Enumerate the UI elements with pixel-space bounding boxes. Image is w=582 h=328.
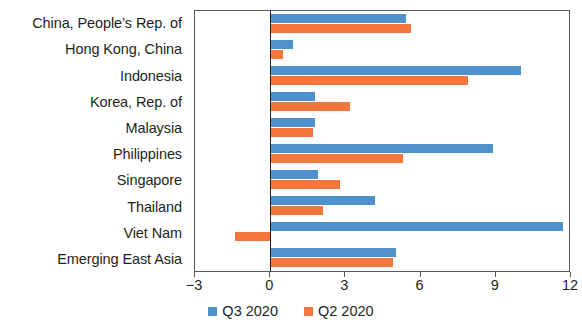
bar-q3-2020 — [270, 144, 493, 153]
bar-q2-2020 — [270, 258, 393, 267]
bar-q3-2020 — [270, 196, 375, 205]
plot-area — [194, 10, 570, 272]
legend-swatch-icon — [304, 307, 313, 316]
bar-row — [195, 193, 569, 219]
category-label: Thailand — [0, 193, 188, 219]
bar-q2-2020 — [270, 24, 410, 33]
bar-row — [195, 63, 569, 89]
legend-swatch-icon — [208, 307, 217, 316]
bar-rows — [195, 11, 569, 271]
category-label: Indonesia — [0, 62, 188, 88]
x-axis-tick-label: 0 — [265, 277, 273, 293]
legend-label: Q3 2020 — [222, 303, 278, 319]
bar-q2-2020 — [270, 154, 403, 163]
bar-q3-2020 — [270, 222, 563, 231]
bar-row — [195, 245, 569, 271]
category-label: Singapore — [0, 167, 188, 193]
bar-q3-2020 — [270, 92, 315, 101]
category-label: Philippines — [0, 141, 188, 167]
x-axis-tick-label: 6 — [416, 277, 424, 293]
bar-row — [195, 115, 569, 141]
x-axis-tick-labels: −3036912 — [0, 277, 582, 299]
bar-q2-2020 — [270, 50, 283, 59]
bar-row — [195, 11, 569, 37]
bar-q3-2020 — [270, 118, 315, 127]
bar-q3-2020 — [270, 170, 318, 179]
zero-axis-line — [270, 11, 271, 271]
x-axis-tick-label: 12 — [562, 277, 578, 293]
bar-chart: China, People’s Rep. ofHong Kong, ChinaI… — [0, 0, 582, 328]
bar-q2-2020 — [270, 102, 350, 111]
x-axis-tick-label: −3 — [186, 277, 203, 293]
chart-legend: Q3 2020Q2 2020 — [0, 303, 582, 319]
bar-q2-2020 — [270, 76, 468, 85]
category-label: Korea, Rep. of — [0, 89, 188, 115]
bar-q3-2020 — [270, 66, 521, 75]
legend-label: Q2 2020 — [318, 303, 374, 319]
category-axis-labels: China, People’s Rep. ofHong Kong, ChinaI… — [0, 10, 188, 272]
bar-q2-2020 — [235, 232, 270, 241]
category-label: Emerging East Asia — [0, 246, 188, 272]
category-label: Viet Nam — [0, 220, 188, 246]
bar-row — [195, 141, 569, 167]
bar-row — [195, 37, 569, 63]
category-label: Hong Kong, China — [0, 36, 188, 62]
x-axis-tick-label: 9 — [491, 277, 499, 293]
legend-item[interactable]: Q2 2020 — [304, 303, 374, 319]
bar-q3-2020 — [270, 248, 395, 257]
bar-row — [195, 219, 569, 245]
bar-row — [195, 89, 569, 115]
bar-q3-2020 — [270, 40, 293, 49]
bar-q2-2020 — [270, 180, 340, 189]
bar-q3-2020 — [270, 14, 405, 23]
bar-q2-2020 — [270, 128, 313, 137]
x-axis-tick-label: 3 — [340, 277, 348, 293]
legend-item[interactable]: Q3 2020 — [208, 303, 278, 319]
bar-q2-2020 — [270, 206, 323, 215]
category-label: China, People’s Rep. of — [0, 10, 188, 36]
bar-row — [195, 167, 569, 193]
category-label: Malaysia — [0, 115, 188, 141]
